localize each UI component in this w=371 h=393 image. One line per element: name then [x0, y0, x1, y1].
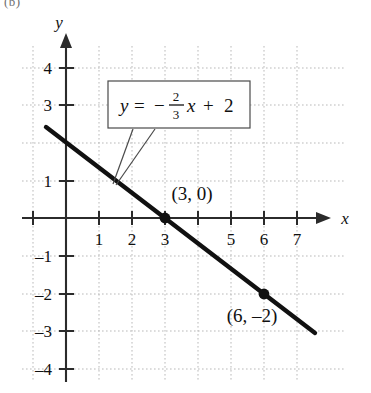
data-point-label: (3, 0): [171, 183, 212, 205]
data-point-label: (6, –2): [227, 305, 278, 327]
data-point-marker: [160, 213, 171, 224]
x-axis-label: x: [340, 209, 349, 228]
coordinate-plane-graph: 1 2 3 5 6 7 4 3 1 –1 –2 –3 –4 x y y: [0, 0, 371, 393]
x-tick-label: 3: [161, 230, 170, 249]
callout-pointer-right: [116, 129, 155, 185]
y-axis-label: y: [53, 13, 63, 32]
equation-equals: =: [134, 95, 145, 116]
y-tick-label: –1: [34, 247, 52, 266]
data-point-marker: [259, 289, 270, 300]
x-tick-label: 1: [95, 230, 104, 249]
part-label: (b): [4, 0, 21, 10]
y-tick-label: 3: [44, 96, 53, 115]
x-tick-label: 6: [260, 230, 269, 249]
equation-variable: x: [186, 95, 196, 116]
figure-container: (b): [0, 0, 371, 393]
y-tick-label: –4: [34, 360, 53, 379]
x-tick-label: 5: [227, 230, 236, 249]
line-graph: [46, 127, 315, 333]
y-tick-label: –2: [34, 285, 52, 304]
x-tick-label: 2: [128, 230, 137, 249]
equation-minus: −: [154, 95, 165, 116]
equation-denominator: 3: [173, 107, 180, 122]
equation-constant: 2: [224, 95, 234, 116]
equation-plus: +: [203, 95, 214, 116]
y-axis-arrowhead: [60, 33, 72, 48]
y-tick-label: –3: [34, 322, 52, 341]
equation-numerator: 2: [173, 89, 180, 104]
x-axis-arrowhead: [316, 212, 331, 224]
equation-lhs: y: [118, 95, 129, 116]
y-tick-label: 1: [44, 172, 53, 191]
x-tick-label: 7: [293, 230, 302, 249]
callout-pointer: [113, 129, 155, 185]
y-tick-label: 4: [44, 59, 53, 78]
